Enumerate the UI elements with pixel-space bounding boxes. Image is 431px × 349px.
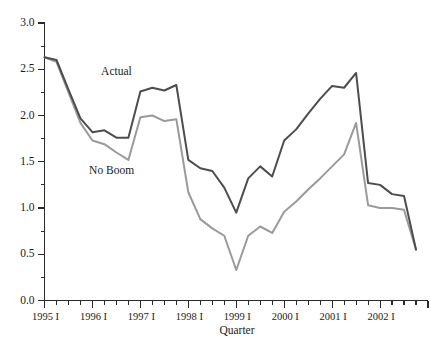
series-label-no-boom: No Boom (89, 164, 134, 176)
y-tick-label: 3.0 (20, 16, 35, 28)
y-tick-label: 0.5 (20, 247, 35, 259)
x-tick-label: 1999 I (224, 311, 252, 322)
x-tick-label: 2002 I (368, 311, 396, 322)
x-tick-label: 2001 I (320, 311, 348, 322)
line-chart: 0.00.51.01.52.02.53.0 1995 I1996 I1997 I… (0, 0, 431, 349)
series-label-actual: Actual (101, 65, 132, 77)
y-tick-label: 1.5 (20, 155, 35, 167)
y-tick-label: 2.5 (20, 62, 35, 74)
x-tick-label: 2000 I (272, 311, 300, 322)
x-axis-title: Quarter (219, 324, 254, 336)
y-tick-label: 1.0 (20, 201, 35, 213)
x-tick-label: 1996 I (80, 311, 108, 322)
x-tick-label: 1998 I (176, 311, 204, 322)
y-tick-label: 2.0 (20, 109, 35, 121)
x-axis: 1995 I1996 I1997 I1998 I1999 I2000 I2001… (32, 301, 428, 323)
y-axis: 0.00.51.01.52.02.53.0 (20, 16, 44, 306)
chart-figure: 0.00.51.01.52.02.53.0 1995 I1996 I1997 I… (0, 0, 431, 349)
y-tick-label: 0.0 (20, 294, 35, 306)
x-tick-label: 1995 I (32, 311, 60, 322)
x-tick-label: 1997 I (128, 311, 156, 322)
